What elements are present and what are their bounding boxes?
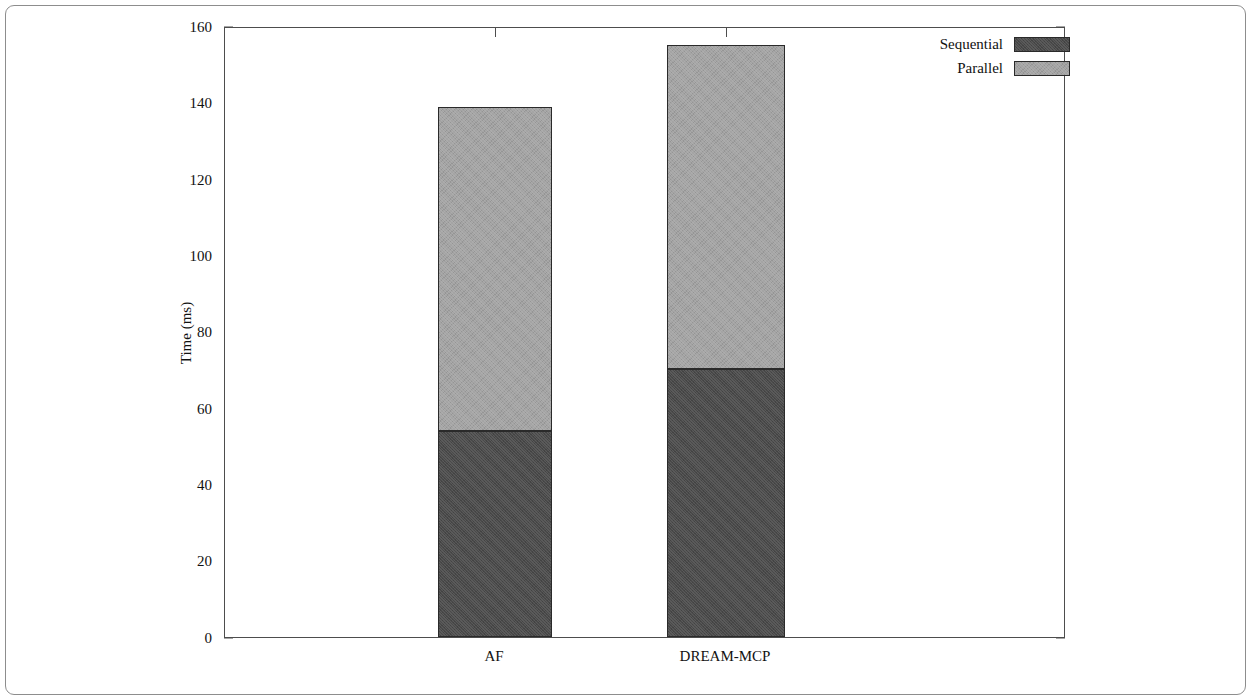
bar-segment-af-sequential[interactable] xyxy=(438,431,552,637)
texture-overlay xyxy=(439,108,551,430)
texture-overlay xyxy=(1015,62,1069,75)
bar-segment-af-parallel[interactable] xyxy=(438,107,552,431)
legend-label-sequential: Sequential xyxy=(940,36,1003,53)
y-tick-label-80: 80 xyxy=(197,325,212,340)
legend-item-parallel[interactable]: Parallel xyxy=(880,57,1070,79)
y-tick-label-40: 40 xyxy=(197,478,212,493)
texture-overlay xyxy=(1015,38,1069,51)
legend-swatch-parallel xyxy=(1014,61,1070,76)
x-tick-label-af: AF xyxy=(484,648,503,665)
texture-overlay xyxy=(668,370,784,636)
texture-overlay xyxy=(668,46,784,368)
x-tick-mark-af xyxy=(495,28,496,37)
y-tick-label-100: 100 xyxy=(190,249,213,264)
bar-af[interactable] xyxy=(438,107,552,637)
plot-area xyxy=(224,27,1065,638)
y-axis-label: Time (ms) xyxy=(178,302,195,364)
y-tick-label-160: 160 xyxy=(190,20,213,35)
legend-label-parallel: Parallel xyxy=(957,60,1003,77)
y-tick-label-0: 0 xyxy=(205,631,213,646)
x-tick-label-dream-mcp: DREAM-MCP xyxy=(680,648,771,665)
bar-segment-dream-mcp-parallel[interactable] xyxy=(667,45,785,369)
legend-item-sequential[interactable]: Sequential xyxy=(880,33,1070,55)
x-tick-mark-dream-mcp xyxy=(726,28,727,37)
y-tick-label-20: 20 xyxy=(197,554,212,569)
y-tick-label-60: 60 xyxy=(197,402,212,417)
bar-segment-dream-mcp-sequential[interactable] xyxy=(667,369,785,637)
bar-dream-mcp[interactable] xyxy=(667,45,785,637)
y-tick-label-140: 140 xyxy=(190,96,213,111)
legend: Sequential Parallel xyxy=(880,33,1070,81)
texture-overlay xyxy=(439,432,551,636)
legend-swatch-sequential xyxy=(1014,37,1070,52)
y-tick-label-120: 120 xyxy=(190,173,213,188)
